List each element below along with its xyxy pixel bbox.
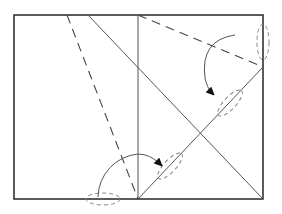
fold-diagram [0,0,282,214]
fold-arrows [98,35,235,197]
valley-fold-dashed-right [138,15,263,67]
valley-fold-dashed-left [67,15,138,199]
ellipse-diag-upper-icon [214,86,246,119]
valley-fold-lines [67,15,263,199]
alignment-marks [86,24,269,205]
crease-line-diagonal-down [88,15,263,199]
arrow-right-fold-icon [204,35,235,93]
crease-lines [88,15,263,199]
